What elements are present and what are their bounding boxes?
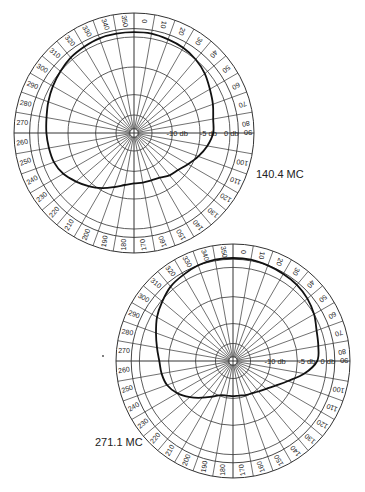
angle-tick-label: 180 — [120, 239, 127, 251]
angle-tick-label: 150 — [273, 454, 285, 468]
angle-tick-label: 80 — [338, 348, 347, 356]
angle-tick-label: 190 — [200, 460, 209, 473]
angle-tick-label: 310 — [149, 277, 163, 290]
angle-tick-label: 300 — [36, 62, 50, 74]
radial-db-label: -10 db — [264, 357, 285, 366]
angle-tick-label: 30 — [291, 267, 301, 277]
angle-tick-label: 40 — [209, 49, 219, 60]
angle-tick-label: 80 — [241, 120, 250, 128]
angle-tick-label: 130 — [206, 206, 220, 219]
angle-tick-label: 140 — [191, 219, 204, 233]
angle-tick-label: 100 — [236, 158, 249, 167]
angle-tick-label: 160 — [157, 235, 168, 248]
angle-tick-label: 350 — [120, 15, 129, 28]
angle-tick-label: 250 — [19, 156, 32, 167]
radial-db-label: -10 db — [167, 129, 188, 138]
angle-tick-label: 190 — [100, 235, 109, 248]
angle-tick-label: 40 — [306, 279, 316, 290]
radiation-pattern-curve — [156, 258, 319, 398]
angle-tick-label: 210 — [63, 218, 75, 232]
angle-tick-label: 100 — [332, 385, 345, 394]
frequency-label-271mc: 271.1 MC — [95, 436, 143, 448]
angle-tick-label: 180 — [219, 464, 226, 476]
angle-tick-label: 220 — [48, 205, 61, 219]
angle-tick-label: 210 — [164, 443, 176, 457]
angle-tick-label: 120 — [315, 418, 329, 430]
polar-chart-271mc: 0102030405060708010011012013014015016017… — [116, 244, 350, 478]
radial-db-label: 0 db — [320, 357, 335, 366]
angle-tick-label: 170 — [237, 464, 246, 477]
angle-tick-label: 260 — [16, 138, 29, 147]
radial-db-label: 90 — [244, 128, 252, 137]
angle-tick-label: 310 — [48, 47, 62, 60]
radial-db-label: -5 db — [298, 357, 315, 366]
polar-charts-svg: 0102030405060708010011012013014015016017… — [0, 0, 365, 492]
angle-tick-label: 270 — [118, 347, 130, 354]
angle-tick-label: 20 — [275, 257, 284, 267]
angle-tick-label: 160 — [255, 460, 266, 473]
angle-tick-label: 340 — [200, 248, 211, 261]
angle-tick-label: 150 — [175, 228, 187, 242]
angle-tick-label: 300 — [137, 292, 151, 304]
radial-db-label: 0 db — [224, 129, 239, 138]
angle-tick-label: 290 — [26, 80, 39, 91]
angle-tick-label: 10 — [258, 251, 266, 260]
frequency-label-140mc: 140.4 MC — [256, 168, 304, 180]
polar-pattern-figure: 0102030405060708010011012013014015016017… — [0, 0, 365, 492]
angle-tick-label: 240 — [25, 174, 39, 186]
angle-tick-label: 330 — [181, 255, 193, 269]
angle-tick-label: 20 — [177, 27, 186, 37]
angle-tick-label: 0 — [240, 250, 247, 254]
angle-tick-label: 280 — [19, 99, 32, 108]
angle-tick-label: 250 — [120, 383, 133, 394]
angle-tick-label: 30 — [194, 36, 204, 46]
angle-tick-label: 260 — [118, 365, 131, 374]
angle-tick-label: 140 — [289, 444, 302, 458]
angle-tick-label: 200 — [81, 228, 92, 241]
angle-tick-label: 220 — [149, 431, 162, 445]
angle-tick-label: 240 — [127, 401, 141, 413]
angle-tick-label: 70 — [334, 329, 344, 338]
angle-tick-label: 290 — [127, 309, 140, 320]
angle-tick-label: 340 — [100, 18, 111, 31]
angle-tick-label: 50 — [318, 294, 329, 304]
angle-tick-label: 230 — [136, 417, 150, 430]
angle-tick-label: 10 — [160, 20, 168, 29]
angle-tick-label: 60 — [231, 81, 241, 91]
radial-db-label: 90 — [340, 356, 348, 365]
angle-tick-label: 320 — [164, 264, 177, 278]
angle-tick-label: 120 — [219, 192, 233, 204]
angle-tick-label: 170 — [139, 238, 148, 251]
angle-tick-label: 280 — [121, 328, 134, 337]
angle-tick-label: 60 — [327, 310, 337, 320]
stray-dot — [102, 355, 104, 357]
angle-tick-label: 270 — [16, 119, 28, 126]
angle-tick-label: 350 — [220, 246, 229, 259]
angle-tick-label: 110 — [229, 176, 242, 186]
angle-tick-label: 0 — [141, 19, 148, 23]
polar-chart-140mc: 0102030405060708010011012013014015016017… — [14, 13, 254, 253]
angle-tick-label: 50 — [221, 64, 232, 74]
angle-tick-label: 200 — [181, 453, 192, 466]
angle-tick-label: 110 — [325, 403, 338, 413]
angle-tick-label: 230 — [35, 190, 49, 203]
angle-tick-label: 130 — [303, 432, 317, 445]
angle-tick-label: 70 — [238, 100, 248, 109]
angle-tick-label: 330 — [81, 24, 93, 38]
angle-tick-label: 320 — [64, 34, 77, 48]
